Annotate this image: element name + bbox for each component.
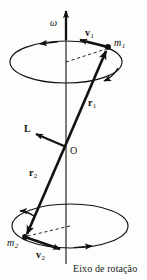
upper-orbit-radius-dashed xyxy=(66,49,106,62)
radius-vector-2 xyxy=(27,144,66,234)
omega-label: ω xyxy=(50,18,57,28)
origin-label: O xyxy=(70,146,77,156)
velocity-vector-2 xyxy=(25,237,60,249)
radius-1-subscript: 1 xyxy=(93,102,97,110)
radius-2-subscript: 2 xyxy=(34,172,38,180)
physics-diagram-figure: ω v1 m1 r1 L O r2 m2 v2 Eixo de rotação xyxy=(0,0,147,280)
velocity-2-label: v2 xyxy=(36,250,45,260)
radius-2-label: r2 xyxy=(29,168,37,178)
mass-2-label: m2 xyxy=(7,238,18,248)
velocity-2-subscript: 2 xyxy=(41,254,45,262)
lower-orbit-radius-dashed xyxy=(28,226,70,236)
angular-momentum-group xyxy=(36,134,64,146)
mass-1-label: m1 xyxy=(114,38,125,48)
axis-caption: Eixo de rotação xyxy=(73,263,137,274)
radius-1-symbol: r xyxy=(88,97,92,108)
radius-1-label: r1 xyxy=(88,98,96,108)
velocity-1-label: v1 xyxy=(85,28,94,38)
velocity-1-subscript: 1 xyxy=(90,32,94,40)
velocity-vector-1 xyxy=(80,40,108,47)
mass-2-symbol: m xyxy=(7,237,14,248)
angular-momentum-label: L xyxy=(24,124,31,134)
radius-2-symbol: r xyxy=(29,167,33,178)
mass-1-subscript: 1 xyxy=(122,42,126,50)
radius-vector-1 xyxy=(66,51,106,144)
mass-1-symbol: m xyxy=(114,37,121,48)
mass-2-subscript: 2 xyxy=(15,242,19,250)
angular-momentum-vector xyxy=(36,134,64,146)
